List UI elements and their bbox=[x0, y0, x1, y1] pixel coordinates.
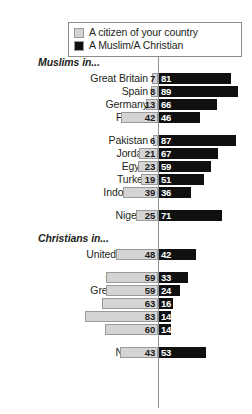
chart-row: Great Britain5924 bbox=[0, 284, 252, 297]
chart-group-header: Christians in... bbox=[0, 232, 148, 244]
chart-value-religion: 51 bbox=[161, 174, 185, 185]
chart-row: Nigeria2571 bbox=[0, 209, 252, 222]
chart-value-citizen: 43 bbox=[114, 347, 155, 358]
chart-value-citizen: 83 bbox=[114, 311, 155, 322]
chart-row: Germany5933 bbox=[0, 271, 252, 284]
chart-value-citizen: 42 bbox=[114, 112, 155, 123]
chart-value-citizen: 59 bbox=[114, 272, 155, 283]
chart-value-citizen: 19 bbox=[114, 174, 155, 185]
chart-value-citizen: 25 bbox=[114, 210, 155, 221]
chart-value-citizen: 8 bbox=[114, 86, 155, 97]
chart-row: France8314 bbox=[0, 310, 252, 323]
chart-row: Egypt2359 bbox=[0, 160, 252, 173]
chart-value-citizen: 59 bbox=[114, 285, 155, 296]
chart-value-citizen: 21 bbox=[114, 148, 155, 159]
chart-value-religion: 59 bbox=[161, 161, 185, 172]
chart-value-religion: 14 bbox=[161, 311, 185, 322]
chart-value-religion: 67 bbox=[161, 148, 185, 159]
chart-row: Spain889 bbox=[0, 85, 252, 98]
chart-row: Turkey1951 bbox=[0, 173, 252, 186]
chart-value-citizen: 63 bbox=[114, 298, 155, 309]
chart-value-religion: 46 bbox=[161, 112, 185, 123]
chart-row: Jordan2167 bbox=[0, 147, 252, 160]
chart-value-citizen: 7 bbox=[114, 73, 155, 84]
chart-value-religion: 42 bbox=[161, 249, 185, 260]
chart-row: Nigeria4353 bbox=[0, 346, 252, 359]
chart-row: United States4842 bbox=[0, 248, 252, 261]
legend-item-religion: A Muslim/A Christian bbox=[74, 39, 236, 52]
chart-value-religion: 87 bbox=[161, 135, 185, 146]
chart-value-religion: 24 bbox=[161, 285, 185, 296]
chart-group-header: Muslims in... bbox=[0, 56, 148, 68]
chart-value-religion: 71 bbox=[161, 210, 185, 221]
chart-row: Russia6316 bbox=[0, 297, 252, 310]
legend-swatch-religion-icon bbox=[74, 41, 84, 51]
chart-value-religion: 53 bbox=[161, 347, 185, 358]
chart-value-religion: 66 bbox=[161, 99, 185, 110]
legend-swatch-citizen-icon bbox=[74, 28, 84, 38]
chart-row: Great Britain781 bbox=[0, 72, 252, 85]
chart-value-citizen: 39 bbox=[114, 187, 155, 198]
chart-value-religion: 16 bbox=[161, 298, 185, 309]
chart-row: Spain6014 bbox=[0, 323, 252, 336]
chart-value-religion: 33 bbox=[161, 272, 185, 283]
chart-row: Pakistan687 bbox=[0, 134, 252, 147]
chart-value-citizen: 13 bbox=[114, 99, 155, 110]
chart-value-religion: 89 bbox=[161, 86, 185, 97]
chart-plot-area: Muslims in...Great Britain781Spain889Ger… bbox=[0, 56, 252, 408]
chart-value-citizen: 48 bbox=[114, 249, 155, 260]
chart-legend: A citizen of your country A Muslim/A Chr… bbox=[68, 22, 242, 57]
chart-value-citizen: 6 bbox=[114, 135, 155, 146]
chart-row: France4246 bbox=[0, 111, 252, 124]
chart-value-citizen: 60 bbox=[114, 324, 155, 335]
chart-value-citizen: 23 bbox=[114, 161, 155, 172]
chart-row: Germany1366 bbox=[0, 98, 252, 111]
chart-value-religion: 14 bbox=[161, 324, 185, 335]
chart-value-religion: 81 bbox=[161, 73, 185, 84]
legend-label-religion: A Muslim/A Christian bbox=[89, 40, 183, 51]
chart-row: Indonesia3936 bbox=[0, 186, 252, 199]
legend-label-citizen: A citizen of your country bbox=[89, 27, 198, 38]
legend-item-citizen: A citizen of your country bbox=[74, 26, 236, 39]
chart-value-religion: 36 bbox=[161, 187, 185, 198]
